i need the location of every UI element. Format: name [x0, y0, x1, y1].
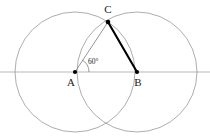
label-angle-60: 60°	[88, 57, 99, 66]
vertex-dot-b	[135, 70, 139, 74]
geometry-figure: A B C 60°	[0, 0, 210, 139]
segment-b-to-c	[108, 22, 137, 72]
label-point-a: A	[67, 76, 75, 88]
label-point-b: B	[134, 76, 141, 88]
vertex-dot-a	[73, 70, 77, 74]
label-point-c: C	[104, 3, 111, 15]
geometry-canvas: A B C 60°	[0, 0, 210, 139]
vertex-dot-c	[106, 20, 111, 25]
